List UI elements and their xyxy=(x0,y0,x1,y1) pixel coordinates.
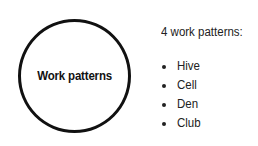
bullet-icon xyxy=(162,65,166,69)
list-item-label: Hive xyxy=(177,57,200,76)
bullet-icon xyxy=(162,122,166,126)
list-item: Club xyxy=(161,114,203,133)
list-item: Cell xyxy=(161,76,203,95)
bullet-icon xyxy=(162,84,166,88)
circle-label: Work patterns xyxy=(37,69,112,83)
list-item: Den xyxy=(161,95,203,114)
work-patterns-list: Hive Cell Den Club xyxy=(161,57,203,133)
work-patterns-circle: Work patterns xyxy=(18,19,131,133)
list-item-label: Cell xyxy=(177,76,197,95)
list-item: Hive xyxy=(161,57,203,76)
list-item-label: Club xyxy=(177,114,201,133)
list-item-label: Den xyxy=(177,95,198,114)
list-heading: 4 work patterns: xyxy=(161,25,243,39)
bullet-icon xyxy=(162,103,166,107)
